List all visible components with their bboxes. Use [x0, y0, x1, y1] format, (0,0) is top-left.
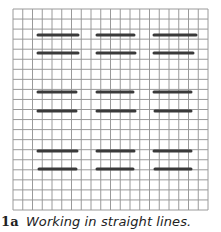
figure: 1a Working in straight lines.	[0, 0, 221, 232]
caption-text: Working in straight lines.	[26, 214, 191, 229]
stitch-grid-diagram	[0, 0, 221, 212]
caption-number: 1a	[1, 214, 19, 229]
figure-caption: 1a Working in straight lines.	[1, 214, 191, 229]
